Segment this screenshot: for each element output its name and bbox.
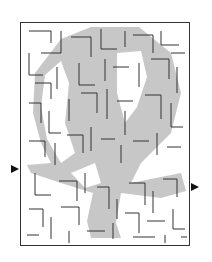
exit-arrow-icon xyxy=(191,183,199,191)
maze-walls xyxy=(21,23,191,247)
maze-board xyxy=(20,22,190,246)
entry-arrow-icon xyxy=(11,165,19,173)
